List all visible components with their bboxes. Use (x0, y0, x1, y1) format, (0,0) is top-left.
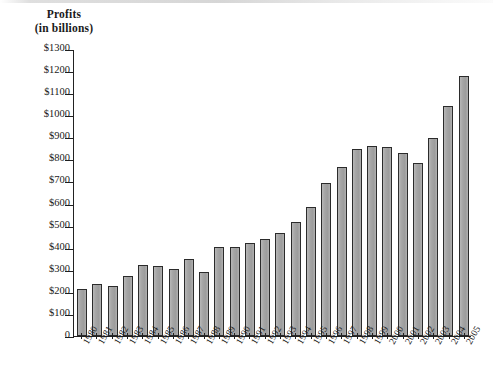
x-axis: 1980198119821983198419851986198719881989… (73, 339, 471, 378)
bar (367, 146, 377, 336)
y-axis-tick-label: $600 (49, 197, 70, 208)
x-axis-tick-group: 2005 (459, 339, 469, 378)
bars-layer (74, 50, 471, 336)
x-axis-tick-group: 1997 (336, 339, 346, 378)
bar (337, 167, 347, 336)
bar (184, 259, 194, 336)
bar (443, 106, 453, 336)
x-axis-tick-group: 1985 (153, 339, 163, 378)
x-axis-tick-group: 1991 (244, 339, 254, 378)
x-axis-tick-group: 1980 (76, 339, 86, 378)
bar (214, 247, 224, 336)
bar (230, 247, 240, 336)
bar (291, 222, 301, 336)
chart-title-subtitle: (in billions) (8, 22, 120, 36)
x-axis-tick-group: 1987 (183, 339, 193, 378)
bar (245, 243, 255, 336)
y-axis-tick-label: $300 (49, 263, 70, 274)
bar (306, 207, 316, 336)
x-axis-tick-group: 1986 (168, 339, 178, 378)
y-axis-tick-label: $1000 (44, 108, 70, 119)
x-axis-tick-group: 1999 (367, 339, 377, 378)
x-axis-tick-group: 2004 (444, 339, 454, 378)
bar (459, 76, 469, 337)
bar (428, 138, 438, 336)
chart-title: Profits (in billions) (8, 8, 120, 35)
y-axis-tick-label: $800 (49, 152, 70, 163)
bar (413, 163, 423, 336)
bar (275, 233, 285, 336)
bar (398, 153, 408, 336)
x-axis-tick-group: 2001 (398, 339, 408, 378)
y-axis-tick-label: 0 (65, 329, 70, 340)
x-axis-tick-group: 1994 (290, 339, 300, 378)
y-axis-tick-label: $500 (49, 219, 70, 230)
y-axis-tick-label: $400 (49, 241, 70, 252)
y-axis-tick-label: $1200 (44, 64, 70, 75)
scan-edge-artifact (0, 0, 493, 3)
x-axis-tick-group: 2002 (413, 339, 423, 378)
x-axis-tick-group: 2003 (428, 339, 438, 378)
y-axis-tick-label: $1300 (44, 42, 70, 53)
chart-title-main: Profits (8, 8, 120, 22)
x-axis-tick-group: 1982 (107, 339, 117, 378)
x-axis-tick-group: 1989 (214, 339, 224, 378)
x-axis-tick-group: 2000 (382, 339, 392, 378)
bar (352, 149, 362, 336)
x-axis-tick-group: 1988 (199, 339, 209, 378)
x-axis-tick-group: 1984 (137, 339, 147, 378)
x-axis-tick-group: 1993 (275, 339, 285, 378)
bar (77, 289, 87, 336)
y-axis-tick-label: $700 (49, 174, 70, 185)
x-axis-tick-group: 1983 (122, 339, 132, 378)
bar (321, 183, 331, 336)
y-axis-tick-label: $900 (49, 130, 70, 141)
y-axis-tick-label: $200 (49, 285, 70, 296)
x-axis-tick-group: 1996 (321, 339, 331, 378)
y-axis-tick-label: $1100 (44, 86, 70, 97)
y-axis-tick-label: $100 (49, 307, 70, 318)
x-axis-tick-group: 1995 (306, 339, 316, 378)
x-axis-tick-group: 1990 (229, 339, 239, 378)
x-axis-tick-group: 1981 (91, 339, 101, 378)
x-axis-tick-group: 1998 (352, 339, 362, 378)
bar (260, 239, 270, 336)
profits-bar-chart: Profits (in billions) $1300$1200$1100$10… (0, 0, 493, 378)
x-axis-tick-group: 1992 (260, 339, 270, 378)
plot-area: $1300$1200$1100$1000$900$800$700$600$500… (73, 50, 471, 337)
bar (382, 147, 392, 336)
